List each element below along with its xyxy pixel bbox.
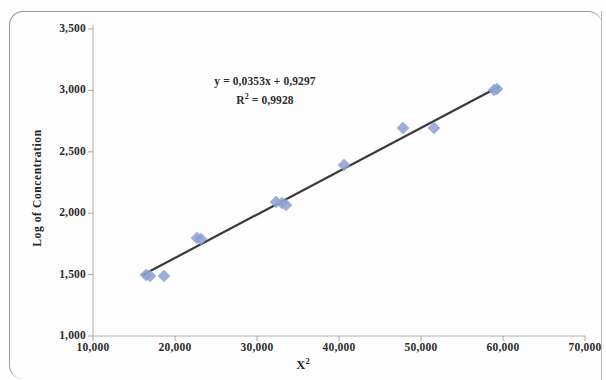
regression-annotation: y = 0,0353x + 0,9297 R2 = 0,9928 <box>175 74 355 108</box>
scatter-series <box>0 0 606 380</box>
x-axis-tick-label: 40,000 <box>323 341 356 353</box>
x-axis-title-exponent: 2 <box>305 356 309 366</box>
r-squared-value: R2 = 0,9928 <box>175 89 355 108</box>
x-axis-tick-label: 10,000 <box>77 341 110 353</box>
x-axis-tick-label: 20,000 <box>159 341 192 353</box>
x-axis-tick-label: 70,000 <box>569 341 602 353</box>
plot-area: 1,0001,5002,0002,5003,0003,500 10,00020,… <box>0 0 606 380</box>
figure-page: 1,0001,5002,0002,5003,0003,500 10,00020,… <box>0 0 606 380</box>
regression-equation: y = 0,0353x + 0,9297 <box>175 74 355 89</box>
x-axis-tick-label: 30,000 <box>241 341 274 353</box>
trendline <box>142 86 500 275</box>
x-axis-title: X2 <box>0 356 606 373</box>
x-axis-tick-label: 50,000 <box>405 341 438 353</box>
y-axis-tick-label: 1,000 <box>28 329 86 341</box>
x-axis-tick-label: 60,000 <box>487 341 520 353</box>
y-axis-title: Log of Concentration <box>31 88 43 288</box>
y-axis-tick-label: 3,500 <box>28 22 86 34</box>
